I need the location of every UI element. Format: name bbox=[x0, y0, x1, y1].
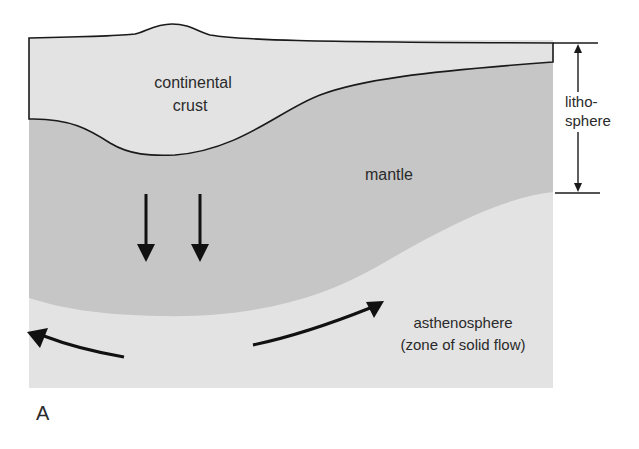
mantle-label: mantle bbox=[365, 166, 413, 183]
crust-label-line1: continental bbox=[154, 74, 231, 91]
lithosphere-label-line2: sphere bbox=[565, 112, 611, 129]
lithosphere-diagram: continental crust mantle litho- sphere a… bbox=[0, 0, 639, 449]
asthenosphere-label-line1: asthenosphere bbox=[413, 314, 512, 331]
crust-label-line2: crust bbox=[173, 97, 208, 114]
lithosphere-label-line1: litho- bbox=[565, 93, 598, 110]
panel-label: A bbox=[36, 402, 50, 424]
asthenosphere-label-line2: (zone of solid flow) bbox=[400, 336, 525, 353]
